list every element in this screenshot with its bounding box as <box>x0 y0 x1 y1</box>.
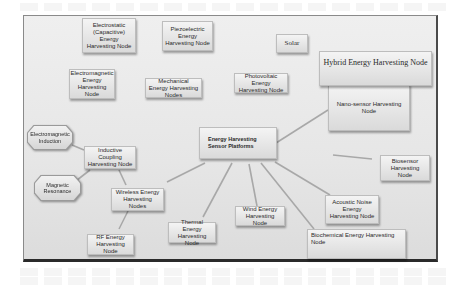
node-photovoltaic: Photovoltaic Energy Harvesting Node <box>234 73 288 93</box>
node-wireless: Wireless Energy Harvesting Nodes <box>111 188 164 211</box>
node-wind: Wind Energy Harvesting Node <box>235 206 285 226</box>
node-electromagnetic: Electromagnetic Energy Harvesting Node <box>69 69 115 99</box>
node-electrostatic: Electrostatic (Capacitive) Energy Harves… <box>82 18 136 53</box>
ghost-text-bottom <box>20 268 447 276</box>
node-mechanical: Mechanical Energy Harvesting Nodes <box>145 78 202 98</box>
node-nanosensor: Nano-sensor Harvesting Node <box>328 84 410 131</box>
node-center-platforms: Energy Harvesting Sensor Platforms <box>199 127 277 159</box>
node-acoustic: Acoustic Noise Energy Harvesting Node <box>325 195 379 224</box>
node-biochemical: Biochemical Energy Harvesting Node <box>307 229 406 259</box>
node-solar: Solar <box>276 34 308 53</box>
node-thermal: Thermal Energy Harvesting Node <box>168 222 216 243</box>
node-biosensor: Biosensor Harvesting Node <box>380 155 430 181</box>
node-inductive-coupling: Inductive Coupling Harvesting Node <box>84 146 136 169</box>
ghost-text-top <box>20 3 447 11</box>
node-magnetic-resonance: Magnetic Resonance <box>34 175 81 201</box>
ghost-text-bottom-2 <box>20 277 447 285</box>
node-hybrid: Hybrid Energy Harvesting Node <box>319 51 432 86</box>
node-em-induction: Electromagnetic Induction <box>27 125 73 150</box>
node-piezoelectric: Piezoelectric Energy Harvesting Node <box>162 21 213 51</box>
node-rf: RF Energy Harvesting Node <box>87 234 134 255</box>
